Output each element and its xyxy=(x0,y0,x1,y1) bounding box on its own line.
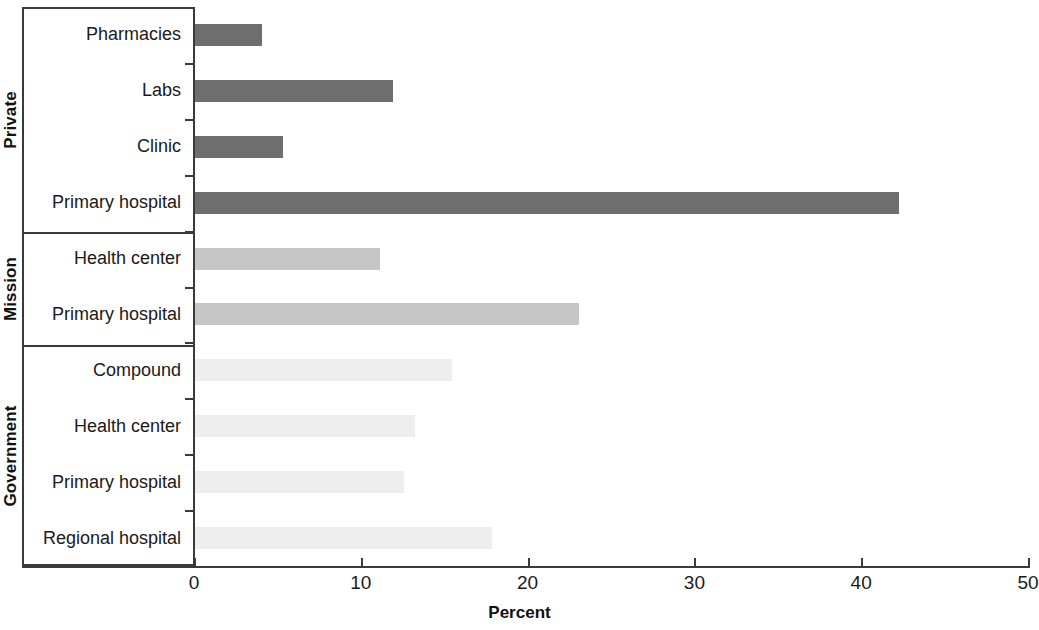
bar xyxy=(195,303,579,325)
x-axis-title: Percent xyxy=(0,603,1039,623)
y-axis-tick-label: Primary hospital xyxy=(10,287,190,343)
chart-row xyxy=(195,342,1030,398)
x-axis-tick-label: 50 xyxy=(1017,572,1038,594)
y-axis-tick-label: Pharmacies xyxy=(10,7,190,63)
bar xyxy=(195,359,452,381)
chart-row xyxy=(195,7,1030,63)
chart-row xyxy=(195,231,1030,287)
x-axis-tick xyxy=(528,558,530,568)
chart-row xyxy=(195,63,1030,119)
x-axis-tick-label: 0 xyxy=(189,572,200,594)
y-axis-tick-label: Health center xyxy=(10,398,190,454)
x-axis-tick xyxy=(361,558,363,568)
bar xyxy=(195,136,283,158)
plot-area xyxy=(195,7,1030,566)
chart-row xyxy=(195,175,1030,231)
y-axis-tick-label: Primary hospital xyxy=(10,454,190,510)
x-axis-tick-label: 20 xyxy=(517,572,538,594)
chart-row xyxy=(195,119,1030,175)
y-axis-tick-label: Labs xyxy=(10,63,190,119)
bar xyxy=(195,24,262,46)
bar-chart: Private Mission Government PharmaciesLab… xyxy=(0,0,1039,630)
y-axis-tick-label: Health center xyxy=(10,231,190,287)
x-axis-tick xyxy=(694,558,696,568)
x-axis-tick-label: 40 xyxy=(851,572,872,594)
bar xyxy=(195,192,899,214)
bar xyxy=(195,471,404,493)
bar xyxy=(195,527,492,549)
x-axis-tick-label: 30 xyxy=(684,572,705,594)
bar xyxy=(195,80,393,102)
bar xyxy=(195,415,415,437)
chart-row xyxy=(195,287,1030,343)
x-axis-tick xyxy=(861,558,863,568)
x-axis-tick xyxy=(1028,558,1030,568)
x-axis-line xyxy=(22,566,1030,568)
x-axis-tick xyxy=(194,558,196,568)
x-axis-tick-label: 10 xyxy=(350,572,371,594)
y-axis-tick-label: Compound xyxy=(10,342,190,398)
chart-row xyxy=(195,510,1030,566)
bar xyxy=(195,248,380,270)
y-axis-tick-label: Regional hospital xyxy=(10,510,190,566)
chart-row xyxy=(195,398,1030,454)
y-axis-tick-label: Clinic xyxy=(10,119,190,175)
chart-row xyxy=(195,454,1030,510)
y-axis-tick-label: Primary hospital xyxy=(10,175,190,231)
